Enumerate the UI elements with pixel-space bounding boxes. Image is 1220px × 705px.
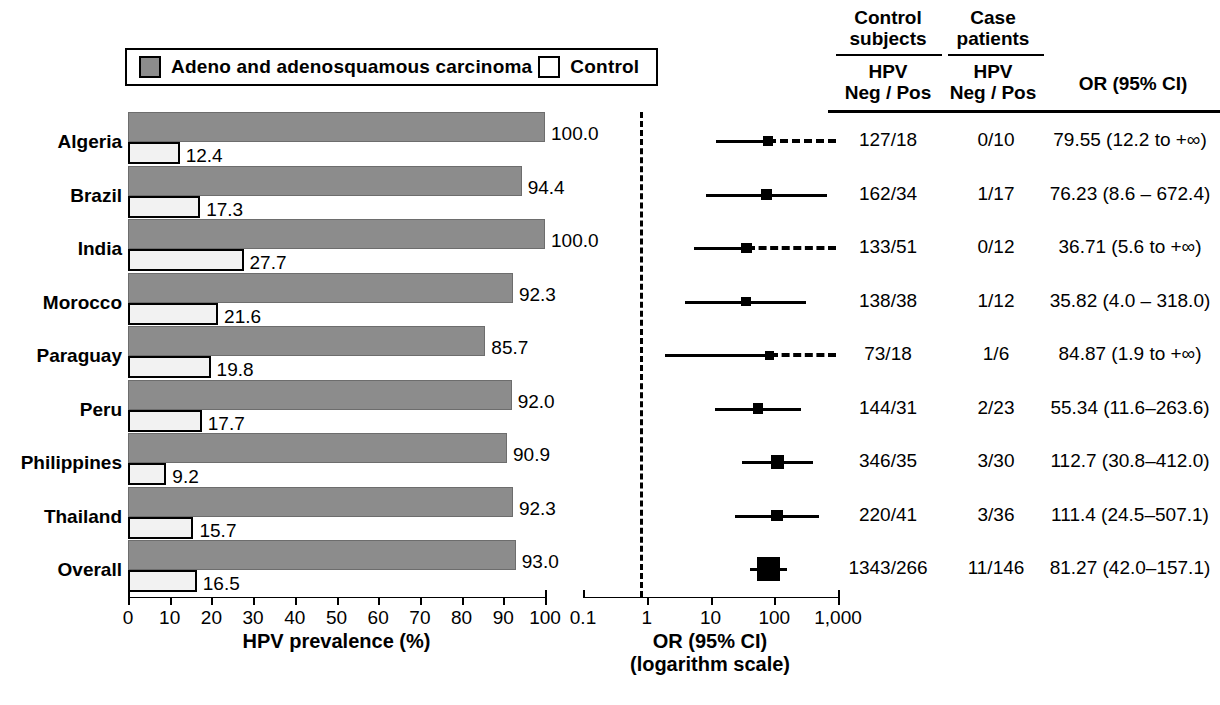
cell-control-negpos: 133/51 (859, 236, 917, 258)
cell-case-negpos: 3/36 (978, 504, 1015, 526)
bar-axis-tick (378, 597, 380, 605)
cell-or-ci: 36.71 (5.6 to +∞) (1059, 236, 1202, 258)
forest-axis-tick (774, 597, 776, 605)
cell-case-negpos: 0/10 (978, 129, 1015, 151)
bar-axis-tick-label: 0 (123, 607, 134, 629)
bar-axis-endcap (128, 590, 130, 598)
country-label: Brazil (0, 185, 122, 207)
country-label: Thailand (0, 506, 122, 528)
cell-case-negpos: 1/17 (978, 183, 1015, 205)
forest-axis-tick-label: 0.1 (570, 607, 596, 629)
bar-axis-tick-label: 70 (409, 607, 430, 629)
cell-case-negpos: 1/12 (978, 290, 1015, 312)
forest-axis-tick-label: 10 (700, 607, 721, 629)
cell-case-negpos: 0/12 (978, 236, 1015, 258)
cell-or-ci: 79.55 (12.2 to +∞) (1053, 129, 1207, 151)
bar-axis-tick (462, 597, 464, 605)
bar-axis-tick-label: 10 (159, 607, 180, 629)
country-label: Morocco (0, 292, 122, 314)
country-label: Overall (0, 559, 122, 581)
forest-axis-endcap (583, 590, 585, 598)
bar-axis-tick-label: 80 (451, 607, 472, 629)
cell-control-negpos: 220/41 (859, 504, 917, 526)
figure-root: Adeno and adenosquamous carcinoma Contro… (0, 0, 1220, 705)
cell-control-negpos: 346/35 (859, 450, 917, 472)
dynamic-layer: AlgeriaBrazilIndiaMoroccoParaguayPeruPhi… (0, 0, 1220, 705)
bar-axis-tick-label: 90 (493, 607, 514, 629)
cell-control-negpos: 162/34 (859, 183, 917, 205)
cell-case-negpos: 11/146 (968, 557, 1025, 579)
bar-axis-tick (170, 597, 172, 605)
bar-axis-tick (420, 597, 422, 605)
bar-axis-tick-label: 40 (284, 607, 305, 629)
country-label: Peru (0, 399, 122, 421)
cell-case-negpos: 3/30 (978, 450, 1015, 472)
forest-axis-tick-label: 1,000 (814, 607, 862, 629)
cell-or-ci: 55.34 (11.6–263.6) (1050, 397, 1209, 419)
cell-control-negpos: 127/18 (859, 129, 917, 151)
country-label: Paraguay (0, 345, 122, 367)
cell-control-negpos: 138/38 (859, 290, 917, 312)
bar-axis-tick-label: 20 (201, 607, 222, 629)
cell-control-negpos: 1343/266 (848, 557, 927, 579)
bar-axis-tick (128, 597, 130, 605)
cell-case-negpos: 1/6 (983, 343, 1009, 365)
cell-control-negpos: 144/31 (859, 397, 917, 419)
bar-axis-endcap (545, 590, 547, 598)
forest-axis-tick (711, 597, 713, 605)
forest-axis-tick-label: 1 (641, 607, 652, 629)
cell-control-negpos: 73/18 (864, 343, 912, 365)
country-label: India (0, 238, 122, 260)
bar-axis-tick-label: 50 (326, 607, 347, 629)
country-label: Algeria (0, 131, 122, 153)
bar-axis-tick (503, 597, 505, 605)
forest-axis-endcap (838, 590, 840, 598)
cell-case-negpos: 2/23 (978, 397, 1015, 419)
bar-axis-tick (545, 597, 547, 605)
forest-axis-tick (838, 597, 840, 605)
bar-axis-tick (253, 597, 255, 605)
cell-or-ci: 112.7 (30.8–412.0) (1050, 450, 1209, 472)
cell-or-ci: 84.87 (1.9 to +∞) (1059, 343, 1202, 365)
bar-axis-tick (211, 597, 213, 605)
cell-or-ci: 35.82 (4.0 – 318.0) (1050, 290, 1211, 312)
bar-axis-tick (337, 597, 339, 605)
bar-axis-tick-label: 60 (368, 607, 389, 629)
forest-axis-tick (647, 597, 649, 605)
cell-or-ci: 76.23 (8.6 – 672.4) (1050, 183, 1211, 205)
forest-axis-tick-label: 100 (758, 607, 790, 629)
cell-or-ci: 81.27 (42.0–157.1) (1050, 557, 1211, 579)
cell-or-ci: 111.4 (24.5–507.1) (1051, 504, 1209, 526)
bar-axis-tick-label: 100 (529, 607, 561, 629)
bar-axis-tick-label: 30 (243, 607, 264, 629)
bar-axis-tick (295, 597, 297, 605)
country-label: Philippines (0, 452, 122, 474)
